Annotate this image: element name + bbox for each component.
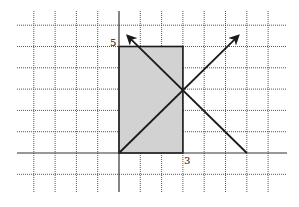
height-label: 5 (110, 37, 116, 48)
coordinate-diagram: 5 3 (0, 0, 299, 207)
width-label: 3 (184, 155, 190, 166)
